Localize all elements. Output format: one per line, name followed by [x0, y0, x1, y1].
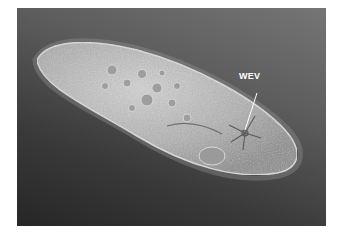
nucleus	[199, 147, 225, 165]
paramecium-illustration	[17, 8, 326, 226]
wev-label: WEV	[239, 71, 260, 81]
micrograph-image	[17, 8, 326, 226]
